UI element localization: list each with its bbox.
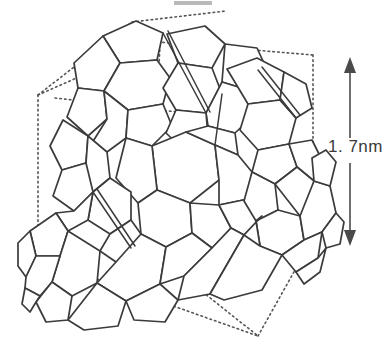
dimension-label: 1. 7nm (328, 137, 383, 157)
cube-edge-top-back-right (132, 11, 226, 22)
arrow-head-up-icon (344, 57, 356, 73)
figure-container: 1. 7nm (0, 0, 390, 354)
fullerene-unit-cell-diagram (0, 0, 390, 354)
fullerene-cluster (18, 21, 344, 330)
arrow-head-down-icon (344, 230, 356, 246)
